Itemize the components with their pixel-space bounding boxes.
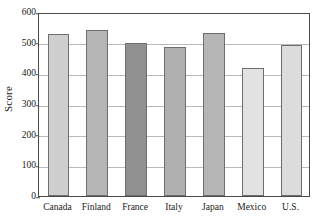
x-axis-tick-label: Finland (77, 200, 116, 214)
y-axis-tick-label: 100 (14, 162, 36, 172)
x-axis-tick-label: Canada (38, 200, 77, 214)
bars-layer (39, 14, 309, 196)
plot-area (38, 13, 310, 197)
x-axis-tick-label: Mexico (232, 200, 271, 214)
y-axis-tick-mark (36, 197, 40, 198)
y-axis-tick-label: 200 (14, 131, 36, 141)
bar-chart: Score 0100200300400500600 CanadaFinlandF… (0, 0, 314, 224)
y-axis-tick-label: 0 (14, 192, 36, 202)
y-axis-tick-label: 600 (14, 8, 36, 18)
bar (281, 45, 303, 196)
x-axis-tick-label: U.S. (271, 200, 310, 214)
y-axis-tick-label: 300 (14, 100, 36, 110)
y-axis-tick-label: 400 (14, 70, 36, 80)
x-axis-tick-label: Japan (193, 200, 232, 214)
bar (125, 43, 147, 196)
x-axis-tick-label: France (116, 200, 155, 214)
bar (48, 34, 70, 196)
bar (86, 30, 108, 196)
y-axis-title-text: Score (2, 85, 14, 111)
x-axis-tick-labels: CanadaFinlandFranceItalyJapanMexicoU.S. (38, 200, 310, 218)
bar (203, 33, 225, 196)
bar (242, 68, 264, 196)
y-axis-tick-labels: 0100200300400500600 (14, 0, 36, 210)
x-axis-tick-label: Italy (155, 200, 194, 214)
y-axis-tick-label: 500 (14, 39, 36, 49)
bar (164, 47, 186, 196)
